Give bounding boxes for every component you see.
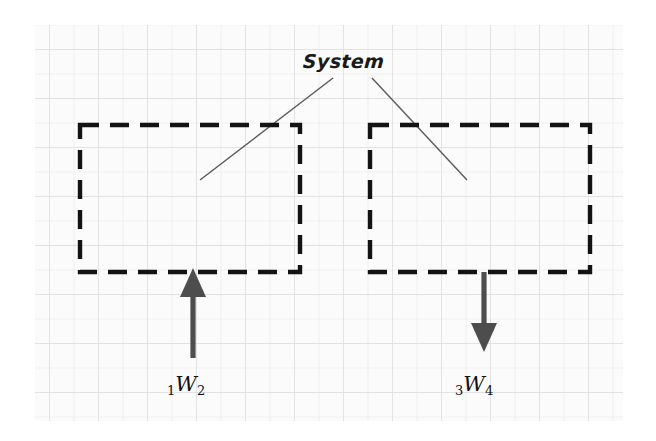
work-in-label: 1W2 — [167, 372, 205, 398]
work-out-post-subscript: 4 — [485, 383, 493, 398]
work-out-label: 3W4 — [455, 372, 493, 398]
graph-paper-background — [35, 25, 623, 421]
system-label: System — [302, 50, 385, 72]
work-in-post-subscript: 2 — [197, 383, 205, 398]
thermodynamics-system-diagram: System 1W2 3W4 — [0, 0, 656, 441]
work-in-symbol: W — [175, 372, 197, 396]
work-out-symbol: W — [463, 372, 485, 396]
